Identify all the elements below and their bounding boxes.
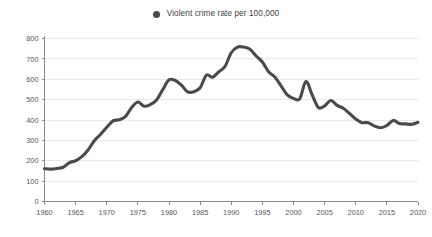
svg-text:1970: 1970	[99, 208, 115, 217]
svg-text:1975: 1975	[130, 208, 146, 217]
x-axis-tick-labels: 1960196519701975198019851990199520002005…	[36, 208, 426, 217]
svg-text:100: 100	[26, 177, 38, 186]
svg-text:2000: 2000	[285, 208, 301, 217]
svg-text:2020: 2020	[410, 208, 426, 217]
svg-text:1960: 1960	[36, 208, 52, 217]
svg-text:2005: 2005	[316, 208, 332, 217]
svg-text:700: 700	[26, 55, 38, 64]
svg-text:400: 400	[26, 116, 38, 125]
violent-crime-rate-line-chart: Violent crime rate per 100,000 010020030…	[0, 0, 432, 237]
svg-text:1995: 1995	[254, 208, 270, 217]
svg-text:600: 600	[26, 75, 38, 84]
gridlines-group	[45, 39, 419, 182]
svg-text:1980: 1980	[161, 208, 177, 217]
plot-area: 0100200300400500600700800 19601965197019…	[0, 0, 432, 237]
svg-text:2015: 2015	[379, 208, 395, 217]
series-line-violent-crime-rate	[45, 47, 419, 170]
svg-text:200: 200	[26, 156, 38, 165]
svg-text:300: 300	[26, 136, 38, 145]
svg-text:800: 800	[26, 34, 38, 43]
chart-canvas: 0100200300400500600700800 19601965197019…	[0, 0, 432, 237]
svg-text:2010: 2010	[348, 208, 364, 217]
y-axis-tick-labels: 0100200300400500600700800	[26, 34, 38, 206]
svg-text:1985: 1985	[192, 208, 208, 217]
svg-text:1965: 1965	[67, 208, 83, 217]
svg-text:500: 500	[26, 95, 38, 104]
svg-text:1990: 1990	[223, 208, 239, 217]
svg-text:0: 0	[34, 197, 38, 206]
